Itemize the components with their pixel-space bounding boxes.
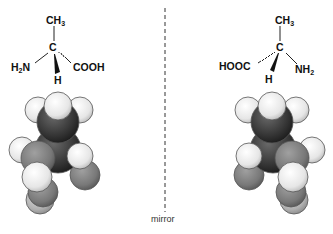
mirror-label: mirror xyxy=(151,215,175,224)
right-amino-label: NH2 xyxy=(295,64,314,76)
right-carboxyl-label: HOOC xyxy=(219,61,251,72)
right-hydrogen-label: H xyxy=(265,74,273,85)
left-carboxyl-label: COOH xyxy=(73,62,105,73)
left-methyl-text: CH xyxy=(46,14,61,26)
diagram-canvas xyxy=(0,0,333,234)
left-space-filling-model xyxy=(9,92,100,214)
left-alpha-carbon-label: C xyxy=(49,42,57,53)
right-amino-text: NH xyxy=(295,63,310,75)
right-space-filling-model xyxy=(234,92,325,214)
left-amino-n: N xyxy=(23,61,31,73)
left-hydrogen-label: H xyxy=(54,75,62,86)
right-amino-sub: 2 xyxy=(310,69,314,76)
left-methyl-sub: 3 xyxy=(61,20,65,27)
left-amino-h: H xyxy=(11,61,19,73)
left-wedge-bond xyxy=(54,54,60,74)
left-methyl-label: CH3 xyxy=(46,15,65,27)
right-wedge-bond xyxy=(270,53,279,72)
left-amino-label: H2N xyxy=(11,62,30,74)
right-alpha-carbon-label: C xyxy=(276,42,284,53)
right-methyl-label: CH3 xyxy=(275,15,294,27)
right-methyl-text: CH xyxy=(275,14,290,26)
right-methyl-sub: 3 xyxy=(290,20,294,27)
